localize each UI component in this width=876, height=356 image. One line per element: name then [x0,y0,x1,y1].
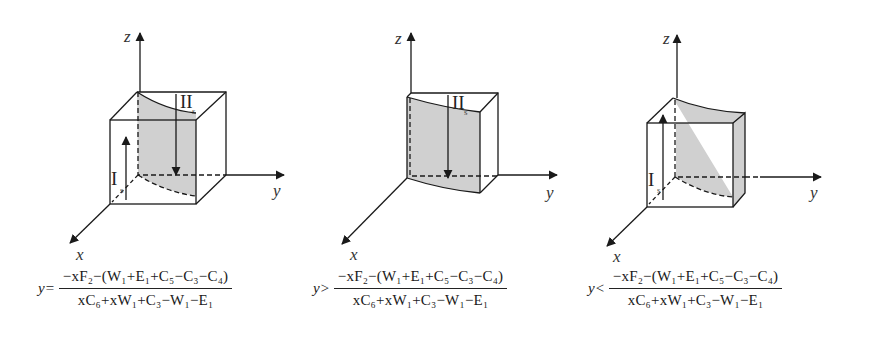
panel-2-shaded-surface [407,97,480,193]
formula-denominator: xC₆+xW₁+C₃−W₁−E₁ [74,289,218,309]
formula-denominator: xC₆+xW₁+C₃−W₁−E₁ [624,289,768,309]
formula-lhs: y= [38,280,55,297]
formula-lhs: y> [313,280,330,297]
panel-3-shaded-surface [673,98,745,207]
panel-3-x-axis [607,207,647,246]
panel-2-z-label: z [394,29,402,48]
panel-3-z-label: z [662,29,670,48]
panel-2-x-axis [342,178,407,244]
panel-3-formula: y< −xF₂−(W₁+E₁+C₅−C₃−C₄) xC₆+xW₁+C₃−W₁−E… [588,268,782,309]
panel-2-x-label: x [349,245,358,264]
panel-3-x-label: x [612,247,621,266]
panel-1-label-I-sub: s [120,185,124,195]
panel-2-label-II: II [452,92,465,113]
panel-2-y-label: y [544,183,554,202]
fraction: −xF₂−(W₁+E₁+C₅−C₃−C₄) xC₆+xW₁+C₃−W₁−E₁ [334,268,508,309]
formula-numerator: −xF₂−(W₁+E₁+C₅−C₃−C₄) [334,268,508,289]
formula-numerator: −xF₂−(W₁+E₁+C₅−C₃−C₄) [609,268,783,289]
panel-3-y-label: y [808,183,818,202]
panel-1-y-label: y [271,181,281,200]
panel-3-label-I: I [648,169,654,190]
panel-3-cube [607,35,821,246]
panel-1-x-label: x [75,245,84,264]
fraction: −xF₂−(W₁+E₁+C₅−C₃−C₄) xC₆+xW₁+C₃−W₁−E₁ [59,268,233,309]
panel-1-cube [70,33,284,243]
formula-denominator: xC₆+xW₁+C₃−W₁−E₁ [349,289,493,309]
panel-2-label-II-sub: s [464,107,468,117]
panel-1-x-axis [70,204,110,243]
panel-1-formula: y= −xF₂−(W₁+E₁+C₅−C₃−C₄) xC₆+xW₁+C₃−W₁−E… [38,268,232,309]
formula-numerator: −xF₂−(W₁+E₁+C₅−C₃−C₄) [59,268,233,289]
panel-1-label-I: I [111,168,117,189]
panel-1-z-label: z [123,27,131,46]
formula-lhs: y< [588,280,605,297]
panel-3-label-I-sub: s [657,185,661,195]
panel-1-label-II-sub: s [192,106,196,116]
fraction: −xF₂−(W₁+E₁+C₅−C₃−C₄) xC₆+xW₁+C₃−W₁−E₁ [609,268,783,309]
panel-1-label-II: II [180,91,193,112]
panel-2-prism [342,33,557,244]
panel-2-formula: y> −xF₂−(W₁+E₁+C₅−C₃−C₄) xC₆+xW₁+C₃−W₁−E… [313,268,507,309]
